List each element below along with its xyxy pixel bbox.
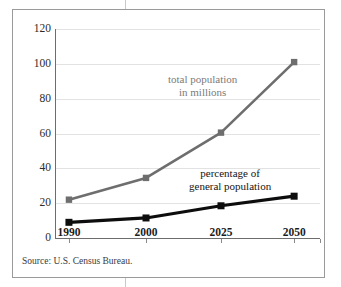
x-axis-end-tick xyxy=(320,239,321,243)
data-point-marker xyxy=(291,193,298,200)
x-axis-tick xyxy=(294,239,295,243)
y-axis-tick-label: 120 xyxy=(34,22,51,34)
annotation-total-population: total population in millions xyxy=(168,73,237,99)
y-axis-tick-label: 100 xyxy=(34,57,51,69)
source-note: Source: U.S. Census Bureau. xyxy=(22,256,132,266)
data-point-marker xyxy=(218,202,225,209)
data-point-marker xyxy=(65,219,72,226)
data-point-marker xyxy=(218,129,224,135)
y-axis-labels: 020406080100120 xyxy=(13,29,51,238)
data-point-marker xyxy=(143,175,149,181)
annotation-total-line2: in millions xyxy=(168,86,237,99)
chart-plot-wrapper: 020406080100120 1990200020252050 total p… xyxy=(13,10,326,279)
chart-figure-frame: 020406080100120 1990200020252050 total p… xyxy=(12,9,325,278)
annotation-total-line1: total population xyxy=(168,73,237,86)
page-canvas: 020406080100120 1990200020252050 total p… xyxy=(0,0,341,287)
y-axis-tick-label: 20 xyxy=(40,196,52,208)
series-layer xyxy=(56,29,320,238)
data-point-marker xyxy=(291,59,297,65)
series-line-percentage xyxy=(69,196,294,222)
y-axis-tick-label: 40 xyxy=(40,161,52,173)
x-axis-line xyxy=(55,238,320,239)
annotation-percentage: percentage of general population xyxy=(189,167,271,193)
y-axis-tick-label: 80 xyxy=(40,92,52,104)
plot-area xyxy=(56,29,320,238)
x-axis-tick xyxy=(146,239,147,243)
annotation-pct-line1: percentage of xyxy=(189,167,271,180)
x-axis-tick-label: 2050 xyxy=(283,226,306,238)
annotation-pct-line2: general population xyxy=(189,180,271,193)
y-axis-tick-label: 60 xyxy=(40,127,52,139)
x-axis-tick xyxy=(221,239,222,243)
y-axis-tick-label: 0 xyxy=(45,231,51,243)
x-axis-tick xyxy=(69,239,70,243)
x-axis-tick-label: 2025 xyxy=(210,226,233,238)
x-axis-tick-label: 2000 xyxy=(135,226,158,238)
x-axis-tick-label: 1990 xyxy=(57,226,80,238)
data-point-marker xyxy=(66,196,72,202)
data-point-marker xyxy=(143,214,150,221)
